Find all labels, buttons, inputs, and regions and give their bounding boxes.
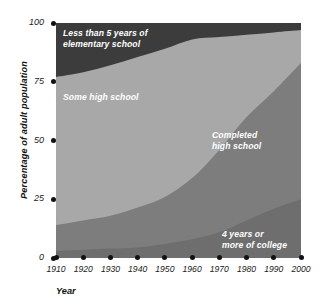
x-tick-dot-1960: [190, 255, 195, 260]
x-tick-label-1990: 1990: [259, 264, 289, 274]
x-tick-label-1940: 1940: [123, 264, 153, 274]
plot-area: [56, 23, 301, 258]
area-label-completed-high-school: Completed high school: [212, 130, 261, 152]
x-tick-dot-1940: [135, 255, 140, 260]
x-tick-dot-1980: [244, 255, 249, 260]
x-tick-dot-1930: [108, 255, 113, 260]
x-tick-dot-1910: [54, 255, 59, 260]
y-tick-label-100: 100: [14, 17, 44, 27]
y-axis-title: Percentage of adult population: [19, 23, 29, 238]
y-tick-label-25: 25: [14, 193, 44, 203]
area-label-four-years-college: 4 years or more of college: [222, 229, 287, 251]
x-tick-label-2000: 2000: [286, 264, 316, 274]
stacked-area-svg: [56, 23, 301, 258]
x-tick-label-1910: 1910: [41, 264, 71, 274]
x-tick-dot-1950: [162, 255, 167, 260]
x-tick-label-1930: 1930: [95, 264, 125, 274]
x-tick-dot-2000: [299, 255, 304, 260]
y-tick-label-75: 75: [14, 76, 44, 86]
chart-figure: Percentage of adult population 100755025…: [0, 0, 325, 305]
x-tick-label-1980: 1980: [232, 264, 262, 274]
x-tick-label-1950: 1950: [150, 264, 180, 274]
x-axis-title: Year: [56, 286, 76, 296]
y-tick-label-50: 50: [14, 135, 44, 145]
x-tick-dot-1920: [81, 255, 86, 260]
x-tick-dot-1990: [271, 255, 276, 260]
x-tick-label-1960: 1960: [177, 264, 207, 274]
x-tick-label-1920: 1920: [68, 264, 98, 274]
area-label-some-high-school: Some high school: [63, 92, 139, 103]
y-tick-label-0: 0: [14, 252, 44, 262]
x-tick-dot-1970: [217, 255, 222, 260]
area-label-less-than-5-years: Less than 5 years of elementary school: [63, 28, 148, 50]
x-tick-label-1970: 1970: [204, 264, 234, 274]
